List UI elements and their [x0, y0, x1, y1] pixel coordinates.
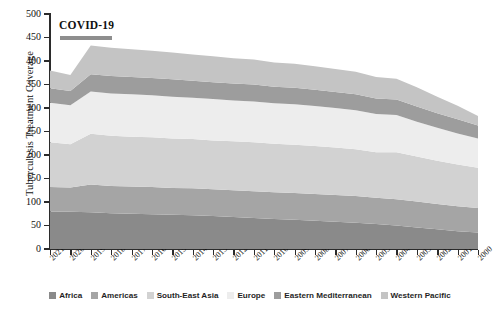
legend-item[interactable]: Eastern Mediterranean	[274, 291, 371, 300]
y-axis-tick-label: 350	[0, 78, 41, 89]
legend-swatch-icon	[227, 292, 234, 299]
legend-label: Africa	[59, 291, 82, 300]
legend-label: Eastern Mediterranean	[284, 291, 371, 300]
stacked-area-chart: Tuberculosis Treatment Coverage 05010015…	[0, 0, 500, 314]
y-axis-tick-label: 500	[0, 8, 41, 19]
y-axis-tick-label: 250	[0, 125, 41, 136]
y-axis-tick-label: 100	[0, 196, 41, 207]
legend-item[interactable]: Africa	[49, 291, 82, 300]
legend-label: Western Pacific	[391, 291, 451, 300]
legend-item[interactable]: South-East Asia	[147, 291, 219, 300]
legend-item[interactable]: Americas	[91, 291, 137, 300]
legend-swatch-icon	[274, 292, 281, 299]
legend-swatch-icon	[91, 292, 98, 299]
covid-annotation-label: COVID-19	[59, 19, 114, 31]
legend-label: South-East Asia	[157, 291, 219, 300]
legend-swatch-icon	[49, 292, 56, 299]
area-series-group	[50, 14, 478, 249]
legend-item[interactable]: Western Pacific	[381, 291, 451, 300]
chart-legend: AfricaAmericasSouth-East AsiaEuropeEaste…	[0, 291, 500, 300]
legend-label: Europe	[237, 291, 265, 300]
legend-label: Americas	[101, 291, 137, 300]
covid-annotation-bar	[60, 36, 112, 40]
x-axis-tick-label: 2000	[476, 244, 494, 262]
y-axis-tick-label: 50	[0, 219, 41, 230]
y-axis-tick-label: 150	[0, 172, 41, 183]
legend-swatch-icon	[147, 292, 154, 299]
y-axis-tick-label: 200	[0, 149, 41, 160]
y-axis-tick-label: 0	[0, 243, 41, 254]
legend-item[interactable]: Europe	[227, 291, 265, 300]
y-axis-tick-label: 450	[0, 31, 41, 42]
y-axis-tick-label: 300	[0, 102, 41, 113]
y-axis-tick-label: 400	[0, 55, 41, 66]
plot-area	[50, 14, 478, 249]
legend-swatch-icon	[381, 292, 388, 299]
